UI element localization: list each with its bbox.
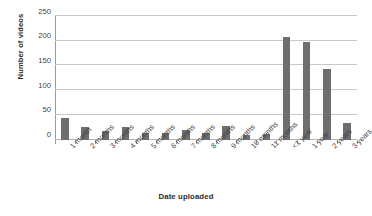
x-tick-label: 7 months — [189, 144, 195, 150]
plot-area — [55, 16, 357, 140]
y-tick-label-100: 100 — [22, 81, 51, 90]
x-tick-label: 11 months — [269, 144, 275, 150]
x-tick-label: 1 year — [310, 144, 316, 150]
x-axis-tick-labels: 1 month2 months3 months4 months5 months6… — [55, 144, 357, 190]
bars-layer — [55, 16, 357, 140]
x-tick-label: 2 months — [88, 144, 94, 150]
y-tick-label-250: 250 — [22, 7, 51, 16]
bar-chart-figure: Number of videos 050100150200250 1 month… — [0, 0, 372, 216]
x-tick-label: 2 years — [330, 144, 336, 150]
bar — [303, 42, 311, 140]
x-tick — [55, 140, 56, 144]
y-axis-tick-labels: 050100150200250 — [22, 11, 51, 139]
y-tick-label-150: 150 — [22, 56, 51, 65]
x-tick-label: 3 months — [108, 144, 114, 150]
x-tick-label: 6 months — [169, 144, 175, 150]
y-tick-label-0: 0 — [22, 130, 51, 139]
x-axis-title: Date uploaded — [0, 192, 372, 201]
x-tick-label: 1 month — [68, 144, 74, 150]
x-tick-label: 4 months — [128, 144, 134, 150]
x-tick-label: 3 years — [350, 144, 356, 150]
x-tick-label: 5 months — [149, 144, 155, 150]
y-tick-label-200: 200 — [22, 31, 51, 40]
x-tick-label: 10 months — [249, 144, 255, 150]
x-tick-label: <1 year — [290, 144, 296, 150]
x-tick-label: 9 months — [229, 144, 235, 150]
bar — [61, 118, 69, 139]
x-tick-label: 8 months — [209, 144, 215, 150]
y-tick-label-50: 50 — [22, 105, 51, 114]
